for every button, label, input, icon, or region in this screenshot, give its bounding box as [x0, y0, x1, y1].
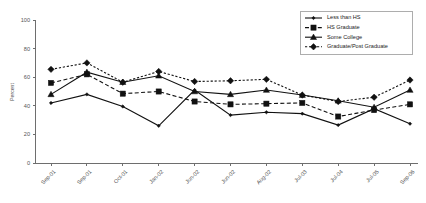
data-point-marker [156, 68, 162, 74]
y-tick-label: 80 [24, 46, 30, 52]
x-tick-label: Sep-01 [76, 168, 93, 185]
chart-legend: Less than HSHS GraduateSome CollegeGradu… [300, 11, 412, 54]
data-point-marker [311, 25, 316, 30]
x-tick-label: Oct-01 [112, 168, 128, 184]
x-tick-label: Jan-02 [148, 168, 164, 184]
x-tick-label: Jul-03 [293, 168, 308, 183]
x-tick-label: Sep-06 [399, 168, 416, 185]
x-tick-label: Jul-04 [329, 168, 344, 183]
x-tick-label: Aug-02 [255, 168, 272, 185]
data-point-marker [85, 93, 88, 96]
data-point-marker [156, 89, 161, 94]
legend-label: HS Graduate [327, 24, 360, 30]
data-point-marker [192, 99, 197, 104]
y-tick-label: 40 [24, 103, 30, 109]
data-point-marker [408, 122, 411, 125]
data-point-marker [48, 66, 54, 72]
x-tick-label: Sep-01 [40, 168, 57, 185]
data-point-marker [407, 87, 413, 92]
data-point-marker [49, 101, 52, 104]
data-point-marker [407, 102, 412, 107]
data-point-marker [335, 98, 341, 104]
data-point-marker [265, 111, 268, 114]
data-point-marker [300, 100, 305, 105]
data-point-marker [337, 123, 340, 126]
data-point-marker [120, 91, 125, 96]
x-tick-label: Jun-02 [220, 168, 236, 184]
y-axis-title: Percent [9, 83, 15, 101]
legend-label: Some College [327, 34, 362, 40]
data-point-marker [84, 60, 90, 66]
x-axis: Sep-01Sep-01Oct-01Jan-02Jun-02Jun-02Aug-… [35, 163, 418, 185]
y-tick-label: 100 [21, 17, 30, 23]
data-point-marker [48, 80, 53, 85]
y-tick-label: 20 [24, 131, 30, 137]
data-point-marker [228, 102, 233, 107]
data-point-marker [407, 77, 413, 83]
y-tick-label: 60 [24, 74, 30, 80]
data-point-marker [48, 91, 54, 96]
x-tick-label: Jun-02 [184, 168, 200, 184]
x-tick-label: Jul-05 [365, 168, 380, 183]
data-point-marker [301, 112, 304, 115]
data-point-marker [263, 87, 269, 92]
data-point-marker [263, 76, 269, 82]
y-axis: 020406080100 [21, 17, 35, 166]
legend-label: Graduate/Post Graduate [327, 43, 388, 49]
legend-label: Less than HS [327, 14, 361, 20]
chart-page: 020406080100 Sep-01Sep-01Oct-01Jan-02Jun… [0, 0, 426, 203]
data-point-marker [336, 114, 341, 119]
data-point-marker [191, 78, 197, 84]
legend-item-hs-graduate[interactable]: HS Graduate [305, 24, 360, 30]
series-container [48, 60, 413, 128]
data-point-marker [371, 94, 377, 100]
legend-item-some-college[interactable]: Some College [305, 34, 362, 40]
data-point-marker [227, 78, 233, 84]
line-chart: 020406080100 Sep-01Sep-01Oct-01Jan-02Jun… [0, 0, 426, 203]
data-point-marker [264, 101, 269, 106]
y-tick-label: 0 [27, 160, 30, 166]
